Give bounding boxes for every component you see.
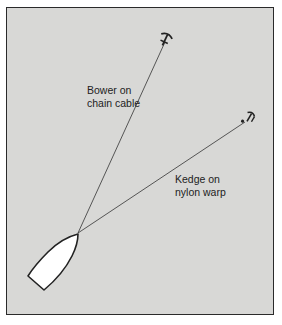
boat-hull-icon	[28, 234, 78, 290]
bower-anchor-icon	[157, 32, 173, 48]
bower-label: Bower on chain cable	[87, 84, 140, 110]
kedge-label-line2: nylon warp	[175, 186, 226, 199]
kedge-anchor-icon	[240, 110, 255, 127]
bower-label-line1: Bower on	[87, 84, 140, 97]
kedge-label: Kedge on nylon warp	[175, 173, 226, 199]
mooring-diagram	[0, 0, 282, 325]
kedge-label-line1: Kedge on	[175, 173, 226, 186]
bower-label-line2: chain cable	[87, 97, 140, 110]
